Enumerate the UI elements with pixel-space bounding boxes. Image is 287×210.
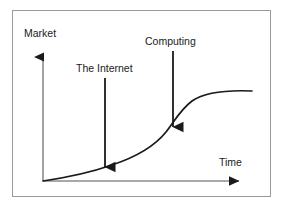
market-axis-label: Market — [24, 28, 56, 39]
the-internet-annotation-label: The Internet — [76, 63, 133, 74]
time-axis-label: Time — [219, 157, 242, 168]
computing-annotation-label: Computing — [145, 36, 196, 47]
s-curve-diagram: Market Time The Internet Computing — [0, 0, 287, 210]
